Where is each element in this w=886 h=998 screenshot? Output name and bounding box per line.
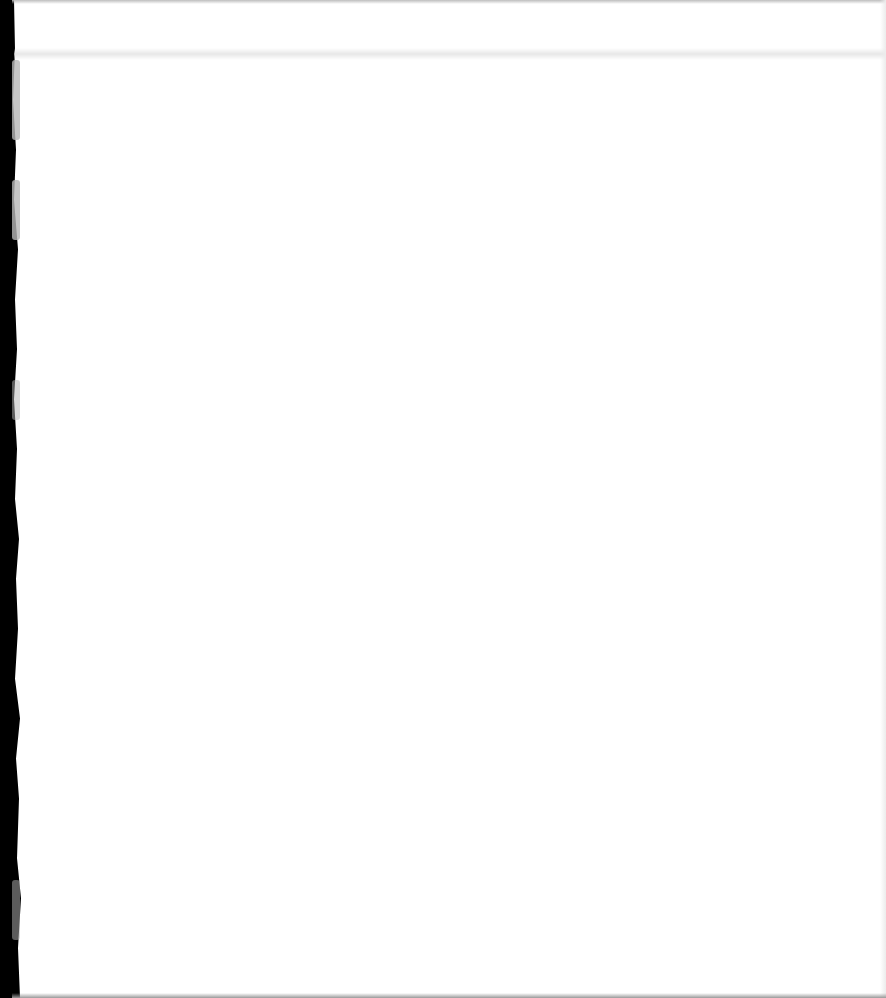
left-edge-smudge <box>12 380 20 420</box>
left-edge-smudge <box>12 180 20 240</box>
top-edge-shadow <box>12 0 886 4</box>
right-edge-shade <box>880 0 886 998</box>
fold-band <box>14 48 886 60</box>
left-edge-smudge <box>12 60 20 140</box>
bottom-edge-shadow <box>12 993 886 998</box>
scanned-page <box>0 0 886 998</box>
blank-paper-sheet <box>12 0 886 998</box>
left-edge-smudge <box>12 880 20 940</box>
